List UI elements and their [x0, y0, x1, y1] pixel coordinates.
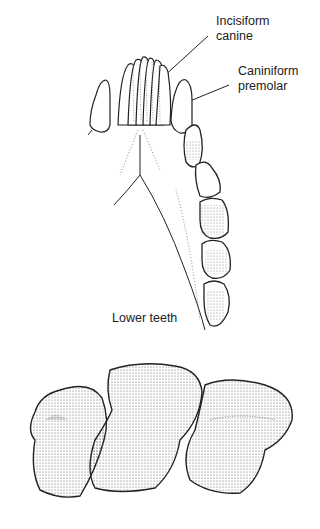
incisor-group: [118, 57, 171, 125]
molar-occlusal-view: [31, 364, 293, 497]
label-caniniform-premolar: Caniniform premolar: [238, 64, 298, 94]
label-incisiform-canine-line1: Incisiform: [216, 14, 269, 29]
pointer-line-incisiform-canine: [162, 36, 208, 78]
right-caniniform-premolar: [171, 80, 192, 133]
label-caniniform-premolar-line2: premolar: [238, 79, 298, 94]
label-incisiform-canine: Incisiform canine: [216, 14, 269, 44]
label-incisiform-canine-line2: canine: [216, 29, 269, 44]
left-caniniform-tooth: [90, 80, 110, 132]
label-lower-teeth: Lower teeth: [112, 311, 177, 326]
label-caniniform-premolar-line1: Caniniform: [238, 64, 298, 79]
